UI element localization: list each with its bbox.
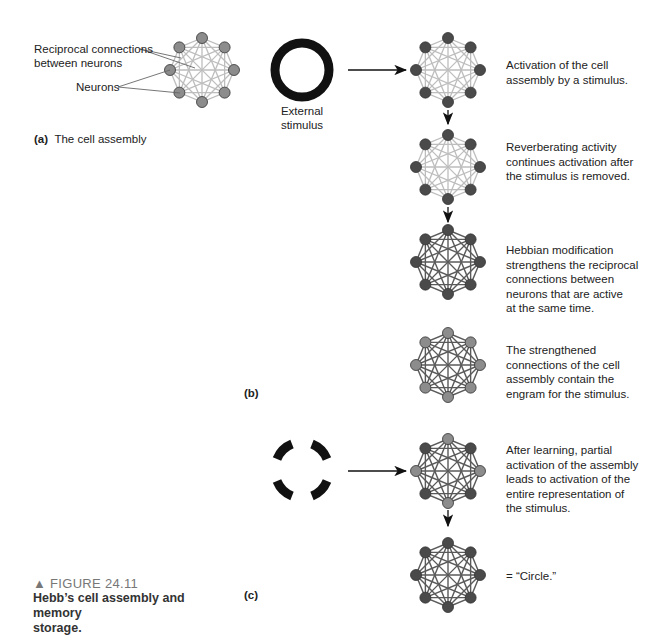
panel-a-title: The cell assembly: [54, 133, 146, 145]
neuron-node: [465, 139, 476, 150]
neuron-node: [197, 33, 208, 44]
neuron-node: [420, 184, 431, 195]
neuron-node: [443, 289, 454, 300]
neuron-node: [465, 279, 476, 290]
partial-activation-network: [411, 434, 486, 509]
neuron-node: [219, 87, 230, 98]
neuron-node: [420, 234, 431, 245]
neuron-node: [411, 162, 422, 173]
activated-network: [411, 33, 486, 108]
neuron-node: [420, 139, 431, 150]
neuron-node: [465, 42, 476, 53]
neuron-node: [411, 360, 422, 371]
figure-number: ▲ FIGURE 24.11: [33, 576, 223, 591]
neuron-node: [420, 42, 431, 53]
neuron-node: [465, 592, 476, 603]
neuron-node: [443, 538, 454, 549]
panel-a-label: (a): [34, 133, 48, 145]
neuron-node: [420, 547, 431, 558]
step-description: The strengthened connections of the cell…: [506, 343, 654, 401]
panel-a-heading: (a) The cell assembly: [34, 133, 147, 145]
neuron-node: [443, 392, 454, 403]
neuron-node: [197, 97, 208, 108]
neuron-node: [229, 65, 240, 76]
neuron-node: [420, 592, 431, 603]
neuron-node: [475, 466, 486, 477]
step-description: Activation of the cell assembly by a sti…: [506, 58, 654, 87]
triangle-marker-icon: ▲: [33, 576, 46, 591]
neuron-node: [219, 42, 230, 53]
neuron-node: [411, 257, 422, 268]
neuron-node: [465, 87, 476, 98]
neuron-node: [420, 87, 431, 98]
neuron-node: [420, 337, 431, 348]
figure-caption: ▲ FIGURE 24.11 Hebb’s cell assembly and …: [33, 576, 223, 636]
neuron-node: [420, 488, 431, 499]
neuron-node: [443, 434, 454, 445]
neuron-node: [420, 443, 431, 454]
neuron-node: [465, 382, 476, 393]
neuron-node: [465, 337, 476, 348]
diagram-graphics: [0, 0, 654, 644]
hebbian-network: [411, 225, 486, 300]
neuron-node: [465, 488, 476, 499]
reverberating-network: [411, 130, 486, 205]
neuron-node: [443, 33, 454, 44]
external-stimulus-label: External stimulus: [272, 104, 332, 132]
cell-assembly-network: [165, 33, 240, 108]
neuron-node: [443, 225, 454, 236]
neuron-node: [475, 162, 486, 173]
neuron-node: [443, 498, 454, 509]
neuron-node: [475, 360, 486, 371]
figure-title: Hebb’s cell assembly and memory storage.: [33, 591, 223, 636]
callout-connections-label: Reciprocal connections between neurons: [34, 42, 153, 70]
neuron-node: [443, 130, 454, 141]
neuron-node: [475, 65, 486, 76]
neuron-node: [411, 466, 422, 477]
panel-b-label: (b): [244, 387, 259, 399]
neuron-node: [420, 279, 431, 290]
engram-network: [411, 328, 486, 403]
neuron-node: [465, 234, 476, 245]
stimulus-circle-icon: [275, 43, 329, 97]
step-description: Reverberating activity continues activat…: [506, 140, 654, 184]
panel-c-label: (c): [244, 589, 258, 601]
neuron-node: [475, 257, 486, 268]
neuron-node: [443, 97, 454, 108]
step-description: Hebbian modification strengthens the rec…: [506, 243, 654, 316]
neuron-node: [443, 602, 454, 613]
step-description: After learning, partial activation of th…: [506, 443, 654, 516]
result-label: = “Circle.”: [506, 569, 654, 584]
callout-neurons-label: Neurons: [76, 80, 119, 94]
neuron-node: [465, 184, 476, 195]
neuron-node: [475, 570, 486, 581]
neuron-node: [174, 42, 185, 53]
neuron-node: [420, 382, 431, 393]
neuron-node: [443, 194, 454, 205]
neuron-node: [443, 328, 454, 339]
neuron-node: [465, 547, 476, 558]
partial-stimulus-icon: [277, 444, 327, 496]
full-representation-network: [411, 538, 486, 613]
neuron-node: [411, 65, 422, 76]
neuron-node: [465, 443, 476, 454]
neuron-node: [411, 570, 422, 581]
